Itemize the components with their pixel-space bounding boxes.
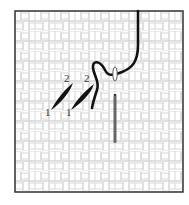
stitch-1-end-label: 2 [64,72,70,84]
canvas-mesh [15,11,183,192]
stitch-1-start-label: 1 [45,106,51,118]
stitch-2-end-label: 2 [84,72,90,84]
stitch-diagram: 1 2 1 2 [0,0,189,205]
stitch-2-start-label: 1 [66,106,72,118]
